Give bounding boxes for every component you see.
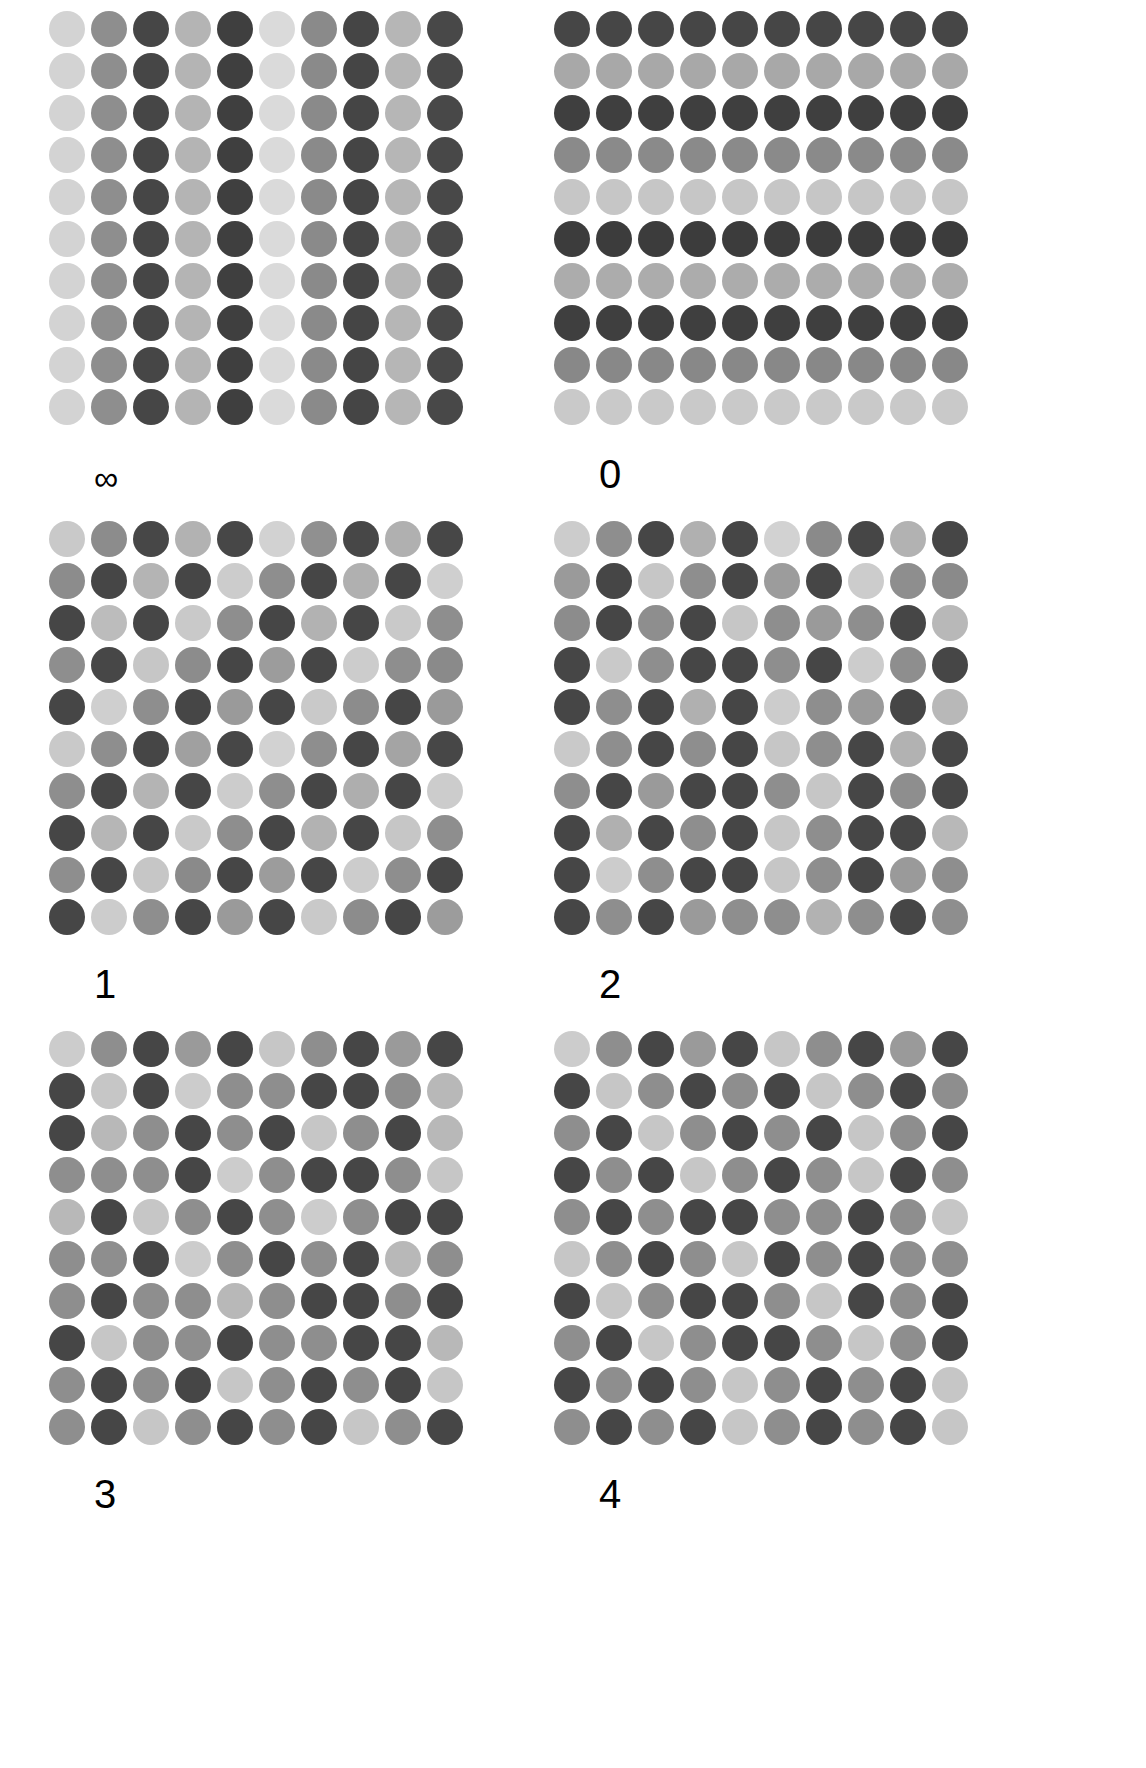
dot [259, 1073, 295, 1109]
dot [175, 221, 211, 257]
dot [427, 899, 463, 935]
dot [554, 263, 590, 299]
dot-cell [424, 302, 466, 344]
dot-cell [635, 1196, 677, 1238]
dot-cell [298, 134, 340, 176]
dot-cell [256, 1028, 298, 1070]
dot [638, 605, 674, 641]
dot [722, 1241, 758, 1277]
dot [175, 647, 211, 683]
dot-cell [256, 260, 298, 302]
dot [301, 1157, 337, 1193]
dot [722, 773, 758, 809]
dot [890, 1199, 926, 1235]
dot-cell [887, 602, 929, 644]
dot [133, 305, 169, 341]
dot [301, 389, 337, 425]
dot-cell [761, 1196, 803, 1238]
dot [932, 647, 968, 683]
dot-cell [382, 1028, 424, 1070]
dot-cell [130, 896, 172, 938]
dot [932, 899, 968, 935]
dot [596, 563, 632, 599]
dot [764, 1241, 800, 1277]
dot [175, 773, 211, 809]
dot [890, 647, 926, 683]
dot-cell [424, 1196, 466, 1238]
dot [175, 1115, 211, 1151]
dot [848, 563, 884, 599]
dot-cell [719, 218, 761, 260]
dot [175, 389, 211, 425]
dot [343, 1241, 379, 1277]
dot [890, 389, 926, 425]
dot [596, 179, 632, 215]
dot-cell [551, 644, 593, 686]
dot [259, 1409, 295, 1445]
dot-cell [172, 1154, 214, 1196]
dot [764, 1367, 800, 1403]
dot [890, 1157, 926, 1193]
dot [91, 731, 127, 767]
dot-cell [719, 560, 761, 602]
dot [722, 53, 758, 89]
dot [343, 221, 379, 257]
dot [49, 53, 85, 89]
dot [890, 815, 926, 851]
dot [49, 1325, 85, 1361]
dot-cell [551, 1238, 593, 1280]
dot-cell [761, 8, 803, 50]
dot [259, 53, 295, 89]
dot-cell [214, 386, 256, 428]
dot [638, 563, 674, 599]
dot-cell [719, 344, 761, 386]
dot-cell [424, 1028, 466, 1070]
panel-infinity: ∞ [46, 8, 516, 518]
dot [764, 389, 800, 425]
panel-grid: ∞ 0 1 2 3 4 [0, 0, 1146, 1768]
dot [217, 53, 253, 89]
dot-cell [382, 1154, 424, 1196]
dot-cell [46, 1028, 88, 1070]
dot [764, 1115, 800, 1151]
dot [890, 731, 926, 767]
dot [554, 1367, 590, 1403]
dot-cell [845, 602, 887, 644]
dot-cell [803, 344, 845, 386]
dot [133, 521, 169, 557]
dot [680, 263, 716, 299]
dot-cell [803, 1112, 845, 1154]
dot-cell [46, 176, 88, 218]
dot-cell [46, 344, 88, 386]
dot [217, 521, 253, 557]
dot [91, 1409, 127, 1445]
dot-cell [298, 812, 340, 854]
dot [638, 53, 674, 89]
dot [91, 521, 127, 557]
dot-cell [46, 770, 88, 812]
dot-cell [88, 686, 130, 728]
dot-cell [677, 1322, 719, 1364]
dot [133, 11, 169, 47]
dot-cell [677, 770, 719, 812]
dot [175, 263, 211, 299]
dot [427, 605, 463, 641]
dot-cell [593, 896, 635, 938]
dot-cell [298, 686, 340, 728]
dot [301, 1409, 337, 1445]
dot-cell [340, 302, 382, 344]
dot [722, 137, 758, 173]
dot-cell [340, 50, 382, 92]
dot [427, 53, 463, 89]
dot [301, 647, 337, 683]
dot [133, 689, 169, 725]
dot [932, 857, 968, 893]
dot [722, 1283, 758, 1319]
dot-cell [677, 1364, 719, 1406]
dot-cell [803, 1322, 845, 1364]
dot-cell [929, 302, 971, 344]
dot-cell [46, 260, 88, 302]
dot [427, 1073, 463, 1109]
dot-cell [88, 1280, 130, 1322]
dot [259, 1241, 295, 1277]
